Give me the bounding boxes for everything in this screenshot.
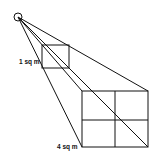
large-area-label: 4 sq m — [57, 144, 78, 151]
diagram-canvas — [0, 0, 157, 155]
ray-bottom-left — [18, 17, 82, 147]
small-area-label: 1 sq m — [19, 59, 40, 66]
ray-top-left — [18, 17, 82, 91]
ray-bottom-right — [18, 17, 148, 147]
ray-top-right — [18, 17, 148, 91]
